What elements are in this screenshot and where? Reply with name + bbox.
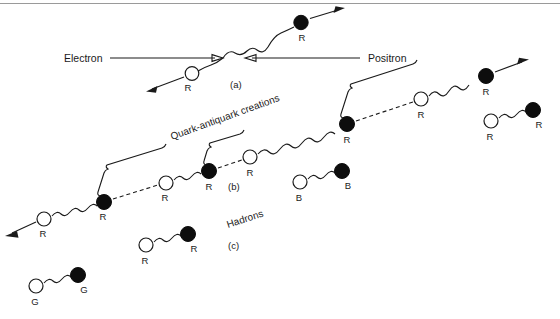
hadron-gg-wavy	[44, 275, 71, 283]
hadron-rr-right-label-open: R	[487, 131, 494, 142]
quark-filled-panel-a	[294, 15, 308, 29]
electron-label: Electron	[64, 52, 103, 64]
hadron-rr-mid-filled-quark	[181, 227, 196, 242]
hadron-bb-wavy	[308, 171, 335, 179]
string-right-escape-arrowhead	[517, 58, 529, 65]
quark-filled-chain-6	[340, 117, 355, 132]
panel-a-right-escape-arrowhead	[334, 6, 346, 13]
pair-bond-dashed-3	[356, 102, 413, 121]
positron-label: Positron	[368, 52, 407, 64]
panel-label-c: (c)	[228, 240, 239, 251]
quark-label-chain-6: R	[344, 134, 351, 145]
hadron-bb-label-open: B	[296, 192, 302, 203]
interaction-wavy-line	[223, 47, 268, 58]
quark-open-chain-1	[37, 212, 51, 226]
hadron-rr-mid-label-open: R	[142, 255, 149, 266]
quark-label-chain-2: R	[100, 211, 107, 222]
hadron-rr-right-filled-quark	[526, 103, 541, 118]
pair-bond-dashed-2	[218, 160, 242, 168]
physics-diagram-figure: R R Electron Positron (a) R R	[0, 0, 560, 319]
wavy-chain-seg-2	[174, 172, 201, 180]
quark-label-chain-1: R	[40, 228, 47, 239]
panel-a-left-wavy	[198, 58, 223, 71]
panel-a-right-escape-line	[310, 10, 338, 19]
wavy-chain-seg-1	[52, 204, 97, 216]
panel-label-b: (b)	[228, 181, 240, 192]
hadron-gg-filled-quark	[71, 268, 86, 283]
quark-filled-chain-4	[202, 164, 217, 179]
quark-label-chain-8: R	[483, 86, 490, 97]
quark-label-chain-3: R	[162, 192, 169, 203]
diagram-canvas: R R Electron Positron (a) R R	[0, 0, 560, 319]
quark-label-panel-a-filled: R	[299, 32, 306, 43]
pair-brace-3	[341, 60, 417, 118]
hadron-bb-open-quark	[293, 175, 307, 189]
quark-antiquark-creations-label: Quark-antiquark creations	[169, 92, 281, 142]
pair-bond-dashed-1	[113, 185, 158, 199]
hadron-gg-label-open: G	[31, 296, 38, 307]
hadron-rr-right-label-filled: R	[536, 119, 543, 130]
string-left-escape-line	[12, 222, 36, 233]
quark-label-chain-4: R	[206, 181, 213, 192]
hadron-bb-label-filled: B	[345, 180, 351, 191]
string-left-escape-arrowhead	[5, 231, 19, 238]
panel-a-group: R R Electron Positron (a)	[64, 6, 407, 93]
hadron-rr-right-wavy	[499, 110, 526, 118]
hadron-rr-mid-open-quark	[139, 238, 153, 252]
hadron-bb-filled-quark	[335, 164, 350, 179]
panel-a-right-wavy	[268, 27, 294, 47]
panel-b-group: R R R R R R	[5, 58, 529, 239]
quark-filled-chain-8	[479, 69, 494, 84]
quark-open-chain-7	[414, 92, 428, 106]
wavy-chain-seg-4	[429, 85, 469, 96]
hadron-rr-mid-label-filled: R	[191, 243, 198, 254]
quark-label-chain-5: R	[247, 167, 254, 178]
hadrons-label: Hadrons	[225, 208, 264, 230]
quark-label-chain-7: R	[418, 109, 425, 120]
panel-a-left-escape-arrowhead	[146, 86, 158, 93]
hadron-rr-mid-wavy	[154, 234, 181, 242]
hadron-rr-right-open-quark	[484, 114, 498, 128]
quark-open-chain-3	[159, 176, 173, 190]
quark-filled-chain-2	[97, 195, 112, 210]
pair-brace-2	[204, 130, 244, 165]
quark-open-chain-5	[243, 150, 257, 164]
panel-label-a: (a)	[230, 79, 242, 90]
pair-brace-1	[98, 144, 166, 196]
quark-label-panel-a-open: R	[185, 82, 192, 93]
wavy-chain-seg-3	[258, 132, 335, 154]
hadron-gg-label-filled: G	[80, 284, 87, 295]
hadron-gg-open-quark	[29, 279, 43, 293]
quark-open-panel-a	[185, 67, 199, 81]
